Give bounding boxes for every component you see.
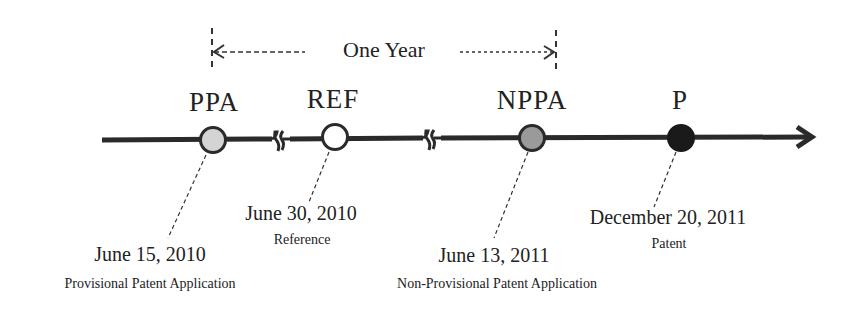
nppa-description: Non-Provisional Patent Application bbox=[397, 276, 597, 292]
ref-abbr-label: REF bbox=[307, 84, 360, 115]
ppa-event-marker bbox=[201, 128, 226, 153]
p-date: December 20, 2011 bbox=[590, 206, 746, 229]
nppa-abbr-label: NPPA bbox=[497, 85, 568, 116]
ppa-abbr-label: PPA bbox=[189, 87, 239, 118]
nppa-event-marker bbox=[520, 126, 545, 151]
ppa-date: June 15, 2010 bbox=[94, 243, 206, 266]
p-event-marker bbox=[668, 125, 694, 151]
ref-event-marker bbox=[323, 125, 348, 150]
nppa-date: June 13, 2011 bbox=[439, 244, 550, 267]
timeline-diagram: One Year PPA REF NPPA P June 15, 2010 Ju… bbox=[0, 0, 859, 309]
ref-description: Reference bbox=[274, 232, 331, 248]
axis-break-2 bbox=[423, 130, 441, 150]
ppa-description: Provisional Patent Application bbox=[64, 276, 235, 292]
ref-date: June 30, 2010 bbox=[245, 202, 357, 225]
p-description: Patent bbox=[652, 236, 687, 252]
axis-break-1 bbox=[272, 131, 290, 151]
span-label: One Year bbox=[339, 37, 429, 63]
p-abbr-label: P bbox=[672, 85, 688, 116]
